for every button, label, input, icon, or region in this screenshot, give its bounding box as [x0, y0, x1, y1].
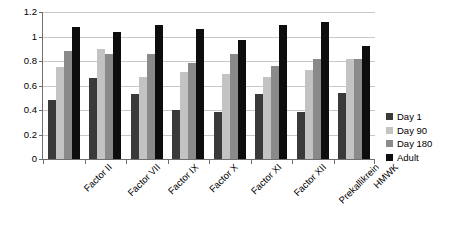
chart-legend: Day 1Day 90Day 180Adult: [386, 112, 432, 162]
bar-group: [126, 12, 168, 159]
y-tick-label: 0.2: [24, 130, 43, 140]
bar: [97, 49, 105, 159]
y-tick-label: 0.6: [24, 81, 43, 91]
bar: [321, 22, 329, 159]
legend-swatch-icon: [386, 113, 393, 120]
plot-area: 00.20.40.60.811.2: [42, 12, 375, 160]
bar-group: [209, 12, 251, 159]
legend-item[interactable]: Day 1: [386, 112, 432, 122]
y-tick-label: 1.2: [24, 7, 43, 17]
bar: [180, 72, 188, 159]
bar: [263, 77, 271, 159]
x-axis-label: Factor II: [82, 162, 113, 193]
bar: [172, 110, 180, 159]
legend-label: Day 1: [397, 112, 422, 122]
y-tick-label: 0.4: [24, 105, 43, 115]
x-axis-label: Factor XII: [292, 162, 328, 198]
bar: [255, 94, 263, 159]
bar: [362, 46, 370, 159]
legend-label: Day 90: [397, 126, 427, 136]
legend-label: Adult: [397, 153, 419, 163]
bar: [354, 59, 362, 159]
bar: [56, 67, 64, 159]
bar: [305, 70, 313, 159]
legend-swatch-icon: [386, 154, 393, 161]
bar-group: [292, 12, 334, 159]
bar: [238, 40, 246, 159]
bar: [139, 77, 147, 159]
x-axis-label: Factor XI: [250, 162, 284, 196]
bar: [147, 54, 155, 159]
bar: [196, 29, 204, 159]
bar: [297, 112, 305, 159]
x-axis-label: Factor IX: [167, 162, 201, 196]
bar: [214, 112, 222, 159]
bar: [131, 94, 139, 159]
bar-group: [85, 12, 127, 159]
legend-swatch-icon: [386, 127, 393, 134]
x-axis-labels: Factor IIFactor VIIFactor IXFactor XFact…: [42, 162, 375, 228]
bar: [313, 59, 321, 159]
x-axis-label: Factor VII: [126, 162, 162, 198]
bar: [105, 54, 113, 159]
bar-group: [334, 12, 376, 159]
legend-label: Day 180: [397, 139, 432, 149]
bar: [89, 78, 97, 159]
legend-item[interactable]: Day 90: [386, 126, 432, 136]
bar: [155, 25, 163, 159]
bar-chart-figure: 00.20.40.60.811.2 Factor IIFactor VIIFac…: [0, 0, 451, 231]
bar: [113, 32, 121, 159]
y-tick-label: 1: [32, 32, 43, 42]
bar: [338, 93, 346, 159]
legend-swatch-icon: [386, 140, 393, 147]
bar: [279, 25, 287, 159]
bar: [346, 59, 354, 159]
bar: [222, 74, 230, 159]
bar-series-container: [43, 12, 375, 159]
bar-group: [43, 12, 85, 159]
x-axis-label: Factor X: [207, 162, 239, 194]
y-tick-label: 0.8: [24, 56, 43, 66]
bar: [188, 63, 196, 159]
bar: [48, 100, 56, 159]
bar: [64, 51, 72, 159]
legend-item[interactable]: Day 180: [386, 139, 432, 149]
bar-group: [168, 12, 210, 159]
bar-group: [251, 12, 293, 159]
bar: [72, 27, 80, 159]
legend-item[interactable]: Adult: [386, 153, 432, 163]
bar: [271, 66, 279, 159]
bar: [230, 54, 238, 159]
